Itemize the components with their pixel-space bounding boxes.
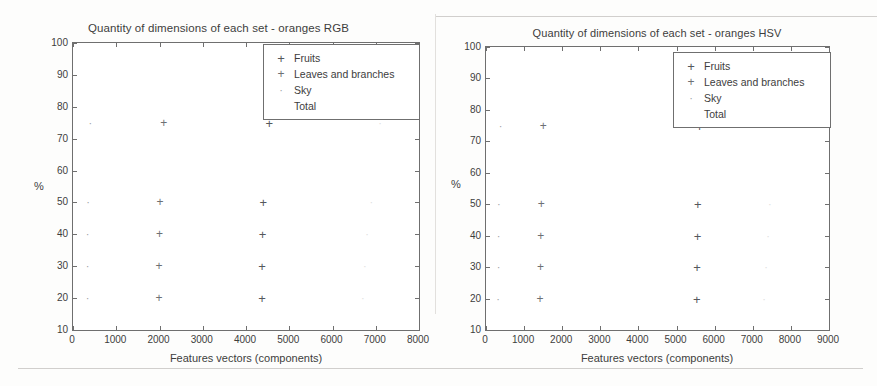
- data-point: ·: [86, 293, 90, 304]
- x-axis-tick: [116, 43, 117, 47]
- data-point: ·: [365, 229, 369, 240]
- legend-item: ·Sky: [270, 82, 411, 98]
- x-axis-tick: [715, 47, 716, 51]
- legend-item: +Fruits: [680, 58, 822, 74]
- y-axis-tick-label: 20: [459, 292, 481, 303]
- legend-item: +Fruits: [270, 50, 411, 66]
- legend-item-label: Fruits: [702, 60, 730, 72]
- x-axis-tick-label: 5000: [277, 334, 299, 345]
- data-point: ·: [766, 230, 770, 241]
- y-axis-tick-label: 50: [459, 198, 481, 209]
- legend-item: ·Sky: [680, 90, 822, 106]
- y-axis-tick: [415, 298, 419, 299]
- y-axis-tick: [415, 171, 419, 172]
- data-point: ·: [762, 293, 766, 304]
- y-axis-tick: [486, 47, 490, 48]
- data-point: ·: [497, 199, 501, 210]
- x-axis-tick: [600, 326, 601, 330]
- x-axis-tick: [638, 47, 639, 51]
- y-axis-tick: [73, 139, 77, 140]
- data-point: +: [156, 196, 163, 208]
- y-axis-tick: [486, 236, 490, 237]
- x-axis-tick: [791, 47, 792, 51]
- data-point: ·: [499, 120, 503, 131]
- y-axis-tick: [486, 141, 490, 142]
- x-axis-tick: [289, 326, 290, 330]
- x-axis-tick: [524, 326, 525, 330]
- legend-marker-icon: +: [680, 76, 702, 88]
- y-axis-tick: [73, 266, 77, 267]
- data-point: ·: [496, 293, 500, 304]
- y-axis-tick: [486, 267, 490, 268]
- x-axis-tick: [715, 326, 716, 330]
- y-axis-label-hsv: %: [451, 178, 461, 190]
- data-point: +: [694, 198, 702, 211]
- y-axis-tick: [825, 173, 829, 174]
- x-axis-tick-label: 7000: [741, 334, 763, 345]
- y-axis-tick-label: 40: [46, 228, 68, 239]
- x-axis-tick: [677, 326, 678, 330]
- x-axis-tick-label: 0: [69, 334, 75, 345]
- x-axis-label-rgb: Features vectors (components): [170, 352, 322, 364]
- legend-item-label: Leaves and branches: [702, 76, 804, 88]
- data-point: +: [537, 230, 544, 242]
- y-axis-tick-label: 10: [459, 324, 481, 335]
- y-axis-tick: [415, 266, 419, 267]
- data-point: ·: [86, 197, 90, 208]
- legend-marker-icon: +: [270, 68, 292, 80]
- x-axis-tick-label: 5000: [664, 334, 686, 345]
- data-point: +: [258, 292, 266, 305]
- x-axis-tick: [524, 47, 525, 51]
- y-axis-tick-label: 10: [46, 324, 68, 335]
- x-axis-tick: [677, 47, 678, 51]
- y-axis-tick: [73, 43, 77, 44]
- legend-item: Total: [680, 106, 822, 122]
- y-axis-tick: [825, 236, 829, 237]
- x-axis-tick: [829, 326, 830, 330]
- legend-item: +Leaves and branches: [270, 66, 411, 82]
- x-axis-tick: [160, 43, 161, 47]
- legend-rgb: +Fruits+Leaves and branches·SkyTotal: [263, 44, 420, 120]
- x-axis-tick: [246, 43, 247, 47]
- x-axis-tick: [203, 326, 204, 330]
- data-point: ·: [370, 197, 374, 208]
- x-axis-tick: [203, 43, 204, 47]
- y-axis-tick-label: 90: [459, 72, 481, 83]
- x-axis-tick-label: 8000: [779, 334, 801, 345]
- y-axis-tick: [825, 267, 829, 268]
- x-axis-tick-label: 8000: [407, 334, 429, 345]
- y-axis-tick-label: 70: [46, 132, 68, 143]
- y-axis-tick-label: 80: [46, 100, 68, 111]
- y-axis-tick: [825, 299, 829, 300]
- y-axis-tick: [73, 330, 77, 331]
- data-point: ·: [497, 230, 501, 241]
- y-axis-tick-label: 60: [46, 164, 68, 175]
- legend-item: Total: [270, 98, 411, 114]
- y-axis-tick: [486, 78, 490, 79]
- legend-item-label: Sky: [702, 92, 722, 104]
- x-axis-tick: [419, 326, 420, 330]
- data-point: +: [156, 292, 163, 304]
- y-axis-tick-label: 30: [46, 260, 68, 271]
- chart-title-rgb: Quantity of dimensions of each set - ora…: [0, 22, 437, 34]
- legend-item: +Leaves and branches: [680, 74, 822, 90]
- x-axis-tick-label: 4000: [234, 334, 256, 345]
- x-axis-tick: [376, 326, 377, 330]
- x-axis-tick-label: 2000: [550, 334, 572, 345]
- x-axis-tick: [791, 326, 792, 330]
- x-axis-tick: [562, 326, 563, 330]
- x-axis-tick: [562, 47, 563, 51]
- legend-marker-icon: +: [680, 60, 702, 73]
- x-axis-tick: [753, 326, 754, 330]
- y-axis-tick: [825, 141, 829, 142]
- plot-axes-hsv: ·····++++++++++····· +Fruits+Leaves and …: [485, 46, 830, 331]
- legend-item-label: Total: [702, 108, 726, 120]
- x-axis-tick-label: 3000: [191, 334, 213, 345]
- y-axis-tick-label: 40: [459, 229, 481, 240]
- x-axis-tick-label: 4000: [626, 334, 648, 345]
- data-point: +: [694, 229, 702, 242]
- data-point: ·: [86, 261, 90, 272]
- legend-marker-icon: ·: [680, 93, 702, 104]
- data-point: ·: [363, 261, 367, 272]
- y-axis-tick: [415, 202, 419, 203]
